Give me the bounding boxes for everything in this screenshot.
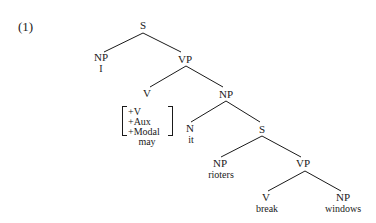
node-np-subject: NP bbox=[94, 52, 108, 63]
feature-bracket-right bbox=[168, 106, 173, 136]
word-may: may bbox=[138, 136, 155, 147]
node-v-modal: V bbox=[143, 88, 151, 99]
edge-s1-np1 bbox=[104, 33, 143, 52]
node-vp-main: VP bbox=[178, 54, 192, 65]
node-v-break: V bbox=[262, 192, 270, 203]
node-s-root: S bbox=[140, 20, 146, 31]
feature-bracket-left bbox=[122, 106, 127, 136]
edge-vp1-np2 bbox=[186, 66, 223, 87]
edge-s2-np3 bbox=[221, 136, 262, 157]
word-it: it bbox=[188, 134, 194, 145]
feature-matrix: +V +Aux +Modal bbox=[128, 107, 160, 137]
node-s-embedded: S bbox=[259, 124, 265, 135]
word-break: break bbox=[256, 203, 278, 214]
edge-vp2-v2 bbox=[268, 171, 305, 191]
edge-s1-vp1 bbox=[143, 33, 181, 52]
edge-np2-s2 bbox=[226, 101, 260, 122]
tree-edges bbox=[0, 0, 376, 223]
edge-np2-n1 bbox=[191, 101, 226, 122]
node-np-rioters: NP bbox=[213, 158, 227, 169]
node-np-windows: NP bbox=[336, 192, 350, 203]
word-windows: windows bbox=[325, 203, 361, 214]
node-vp-embedded: VP bbox=[296, 158, 310, 169]
node-np-object: NP bbox=[219, 89, 233, 100]
edge-vp2-np4 bbox=[305, 171, 341, 191]
edge-vp1-v1 bbox=[150, 66, 186, 87]
node-n: N bbox=[186, 123, 194, 134]
edge-s2-vp2 bbox=[262, 136, 301, 157]
word-i: I bbox=[99, 63, 102, 74]
word-rioters: rioters bbox=[208, 169, 234, 180]
